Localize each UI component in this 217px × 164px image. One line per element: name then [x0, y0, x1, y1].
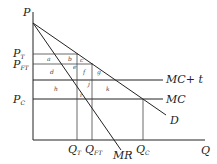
area-i: i [80, 91, 82, 98]
area-j: j [86, 80, 90, 88]
area-k: k [106, 85, 110, 92]
demand-label: D [169, 114, 179, 127]
area-e: e [73, 63, 77, 70]
monopoly-tax-diagram: P Q PT PFT PC QT QFT QC MC+ t MC D MR a … [0, 0, 217, 164]
area-f: f [82, 68, 87, 76]
mc-label: MC [165, 93, 186, 106]
area-b: b [68, 55, 72, 62]
area-c: c [80, 56, 84, 63]
y-axis-label: P [22, 6, 31, 19]
qc-label: QC [136, 143, 150, 156]
area-d: d [50, 68, 54, 75]
area-h: h [54, 85, 58, 92]
pc-label: PC [12, 93, 25, 106]
area-g: g [97, 68, 101, 76]
qt-label: QT [68, 143, 82, 156]
mc-plus-t-label: MC+ t [165, 73, 203, 86]
x-axis-label: Q [201, 144, 210, 157]
mr-label: MR [112, 149, 133, 162]
qft-label: QFT [85, 143, 103, 156]
area-a: a [47, 55, 51, 62]
